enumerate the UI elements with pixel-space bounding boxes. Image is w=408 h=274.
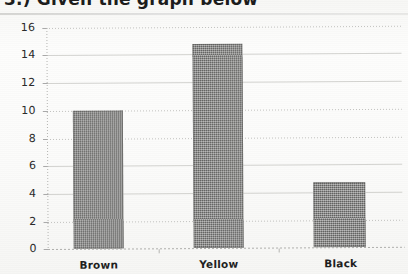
ytick-label-10: 10 [10,104,36,117]
xtick-label-yellow: Yellow [184,258,254,270]
xtick-label-brown: Brown [64,258,134,270]
ytick-label-0: 0 [11,242,37,255]
ytick-label-16: 16 [9,21,35,34]
ytick-label-12: 12 [10,76,36,89]
ytick-label-4: 4 [10,187,36,200]
ytick-label-8: 8 [10,132,36,145]
xtick-2 [279,249,280,253]
ytick-label-6: 6 [10,159,36,172]
gridline-16 [46,26,401,29]
xtick-1 [159,249,160,253]
bar-black [313,182,365,247]
xtick-label-black: Black [306,257,376,269]
ytick-label-2: 2 [10,215,36,228]
bar-chart: 16 14 12 10 8 6 4 2 0 Brown Yellow Black [0,0,408,274]
bar-brown [73,110,124,248]
bar-yellow [192,43,243,248]
ytick-label-14: 14 [9,48,35,61]
